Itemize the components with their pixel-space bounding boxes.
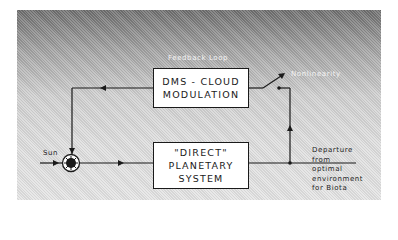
dms-box-line2: MODULATION bbox=[163, 88, 239, 101]
forward-path-line bbox=[80, 160, 153, 166]
feedback-up-line bbox=[287, 88, 293, 163]
direct-box-line3: SYSTEM bbox=[178, 172, 223, 185]
departure-line-1: Departure bbox=[312, 146, 363, 156]
direct-box-line2: PLANETARY bbox=[168, 159, 233, 172]
summing-junction-icon bbox=[63, 155, 80, 172]
nonlinearity-label: Nonlinearity bbox=[291, 70, 341, 78]
nonlinearity-switch-icon bbox=[248, 73, 290, 90]
departure-label: Departure from optimal environment for B… bbox=[312, 146, 363, 194]
departure-line-2: from bbox=[312, 156, 363, 166]
feedback-loop-label: Feedback Loop bbox=[168, 54, 228, 62]
departure-line-5: for Biota bbox=[312, 184, 363, 194]
sun-label: Sun bbox=[43, 149, 58, 157]
sun-input-line bbox=[40, 160, 62, 166]
feedback-return-line bbox=[69, 85, 153, 154]
dms-box-line1: DMS - CLOUD bbox=[162, 75, 240, 88]
direct-planetary-system-box: "DIRECT" PLANETARY SYSTEM bbox=[153, 142, 249, 189]
direct-box-line1: "DIRECT" bbox=[174, 146, 228, 159]
departure-line-4: environment bbox=[312, 175, 363, 185]
departure-line-3: optimal bbox=[312, 165, 363, 175]
dms-cloud-modulation-box: DMS - CLOUD MODULATION bbox=[153, 68, 249, 108]
